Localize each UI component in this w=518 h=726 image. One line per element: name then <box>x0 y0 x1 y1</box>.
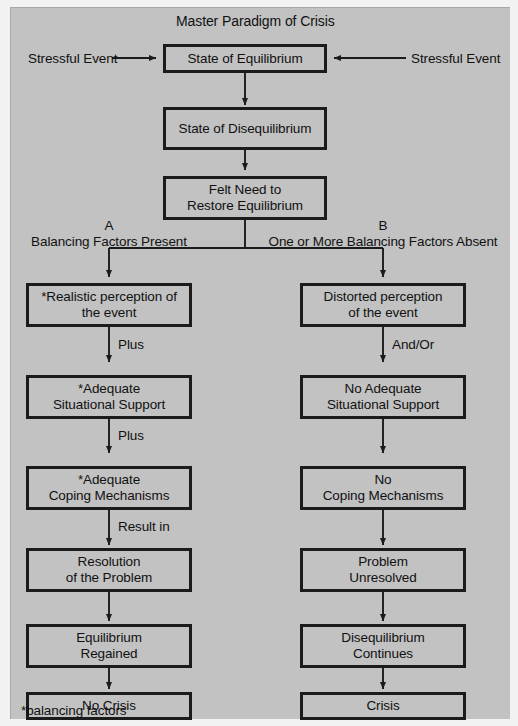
node-state-of-disequilibrium: State of Disequilibrium <box>163 107 327 150</box>
node-realistic-perception: *Realistic perception of the event <box>26 283 192 327</box>
branch-b-letter: B <box>374 218 392 234</box>
node-adequate-situational-support: *Adequate Situational Support <box>26 375 192 419</box>
node-no-adequate-situational-support: No Adequate Situational Support <box>300 375 466 419</box>
connector-label-plus-2: Plus <box>118 428 144 444</box>
branch-b-caption: One or More Balancing Factors Absent <box>250 234 516 250</box>
node-adequate-coping-mechanisms: *Adequate Coping Mechanisms <box>26 466 192 510</box>
node-problem-unresolved: Problem Unresolved <box>300 548 466 592</box>
branch-a-letter: A <box>100 218 118 234</box>
connector-label-plus-1: Plus <box>118 337 144 353</box>
node-felt-need-to-restore-equilibrium: Felt Need to Restore Equilibrium <box>163 176 327 220</box>
node-crisis: Crisis <box>300 692 466 720</box>
figure-title: Master Paradigm of Crisis <box>176 13 335 29</box>
node-no-coping-mechanisms: No Coping Mechanisms <box>300 466 466 510</box>
node-distorted-perception: Distorted perception of the event <box>300 283 466 327</box>
connector-label-result-in: Result in <box>118 519 170 535</box>
branch-a-caption: Balancing Factors Present <box>9 234 209 250</box>
node-disequilibrium-continues: Disequilibrium Continues <box>300 624 466 668</box>
stressful-event-left-label: Stressful Event <box>28 51 117 67</box>
connector-label-and-or: And/Or <box>392 337 434 353</box>
figure-footnote: *balancing factors <box>21 703 127 718</box>
node-state-of-equilibrium: State of Equilibrium <box>163 44 327 73</box>
stressful-event-right-label: Stressful Event <box>411 51 500 67</box>
node-resolution-of-the-problem: Resolution of the Problem <box>26 548 192 592</box>
crisis-paradigm-figure: Master Paradigm of Crisis Stressful Even… <box>0 0 518 726</box>
node-equilibrium-regained: Equilibrium Regained <box>26 624 192 668</box>
